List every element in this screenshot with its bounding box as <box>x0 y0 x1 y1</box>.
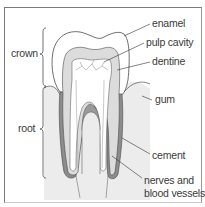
label-dentine: dentine <box>152 56 185 67</box>
label-gum: gum <box>155 94 175 105</box>
label-nerves-line1: nerves and <box>144 175 194 186</box>
label-nerves-line2: blood vessels <box>144 188 205 199</box>
label-enamel: enamel <box>152 18 185 29</box>
label-pulp-cavity: pulp cavity <box>146 37 193 48</box>
crown-brace <box>40 28 46 86</box>
leader-enamel <box>124 24 150 36</box>
label-crown: crown <box>11 48 38 59</box>
label-cement: cement <box>152 150 185 161</box>
label-root: root <box>18 123 35 134</box>
